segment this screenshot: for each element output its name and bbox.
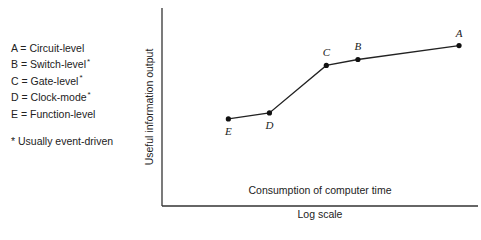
data-points: EDCBA <box>224 27 463 137</box>
point-label-e: E <box>224 125 232 137</box>
point-label-a: A <box>455 27 463 39</box>
point-label-b: B <box>355 40 362 52</box>
point-label-c: C <box>323 46 331 58</box>
point-label-d: D <box>264 119 273 131</box>
data-point-d <box>267 110 272 115</box>
data-point-b <box>355 57 360 62</box>
x-axis-label: Log scale <box>162 208 478 220</box>
data-line <box>228 46 459 119</box>
data-point-c <box>324 63 329 68</box>
x-axis-inner-label: Consumption of computer time <box>162 184 478 196</box>
data-point-e <box>226 116 231 121</box>
data-point-a <box>456 43 461 48</box>
